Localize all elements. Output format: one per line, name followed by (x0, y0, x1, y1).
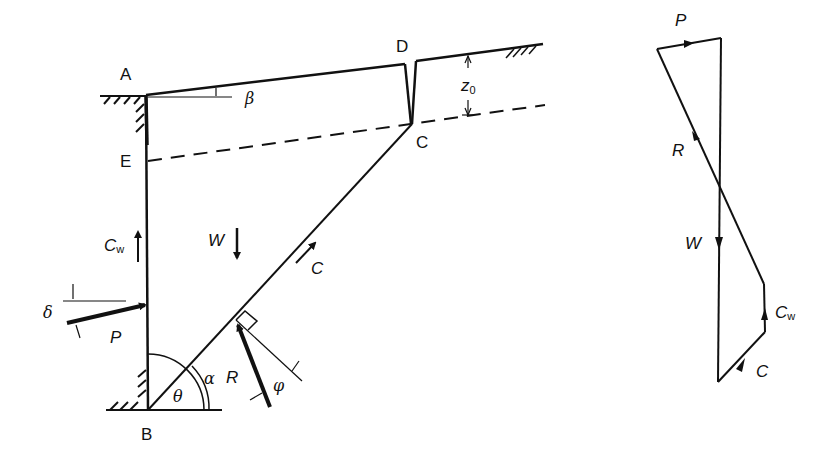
ground-hatch-A (100, 96, 146, 132)
polygon-label-Cw: Cw (775, 303, 795, 322)
polygon-W-arrowhead (715, 237, 723, 250)
ground-surface-AD (146, 64, 405, 95)
polygon-Cw-arrowhead (761, 308, 768, 320)
label-A: A (120, 65, 132, 84)
label-C-point: C (416, 133, 428, 152)
label-D: D (396, 37, 408, 56)
force-polygon: P R W Cw C (657, 11, 795, 382)
label-C-force: C (311, 259, 324, 278)
label-delta: δ (43, 303, 53, 322)
polygon-Cw (764, 284, 765, 332)
phi-tick-R (250, 393, 262, 400)
tension-crack-right (412, 61, 416, 124)
polygon-R (657, 49, 764, 284)
wall-AE-thick (146, 95, 147, 145)
wedge-diagram: A E D C B β α θ φ δ W P R C Cw z0 P R W (0, 0, 835, 453)
polygon-label-R: R (672, 141, 684, 160)
label-E: E (120, 152, 131, 171)
label-B: B (141, 425, 152, 444)
label-theta: θ (173, 387, 183, 406)
label-alpha: α (204, 369, 215, 388)
polygon-label-P: P (675, 11, 687, 30)
delta-tick-bottom (76, 325, 80, 338)
polygon-W (718, 38, 721, 382)
polygon-P-arrowhead (684, 40, 694, 48)
label-P: P (110, 328, 122, 347)
tension-crack-left (405, 64, 411, 124)
polygon-label-C: C (756, 362, 769, 381)
slip-plane-BC (148, 124, 412, 410)
label-R: R (226, 368, 238, 387)
dashed-line-EC (148, 105, 545, 161)
phi-tick-normal (292, 361, 299, 371)
label-Cw: Cw (104, 236, 124, 255)
label-phi: φ (273, 376, 285, 395)
label-W: W (208, 231, 226, 250)
main-wedge: A E D C B β α θ φ δ W P R C Cw z0 (43, 37, 545, 444)
label-beta: β (244, 89, 254, 108)
thrust-P-arrow (67, 305, 145, 323)
label-z0: z0 (460, 76, 476, 96)
polygon-label-W: W (685, 234, 703, 253)
